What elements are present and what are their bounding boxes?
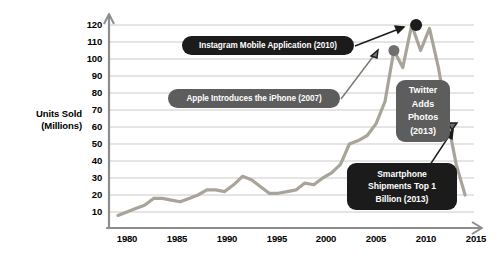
annotation-smartphone-line-1: Smartphone	[368, 168, 436, 181]
leader-iphone-head	[371, 50, 378, 58]
y-tick-label: 100	[78, 54, 102, 64]
y-tick-label: 110	[78, 37, 102, 47]
line-chart: Units Sold (Millions) 120 110 100 90 80 …	[0, 0, 504, 260]
annotation-twitter-line-4: (2013)	[408, 125, 438, 139]
y-tick-label: 50	[78, 139, 102, 149]
annotation-twitter[interactable]: Twitter Adds Photos (2013)	[396, 80, 450, 142]
y-tick-label: 40	[78, 156, 102, 166]
x-tick-label: 1985	[160, 234, 194, 244]
y-tick-label: 20	[78, 190, 102, 200]
annotation-smartphone-line-2: Shipments Top 1	[368, 180, 436, 193]
annotation-iphone[interactable]: Apple Introduces the iPhone (2007)	[168, 89, 340, 108]
y-tick-label: 30	[78, 173, 102, 183]
annotation-smartphone[interactable]: Smartphone Shipments Top 1 Billion (2013…	[347, 163, 457, 210]
annotation-twitter-line-1: Twitter	[408, 84, 438, 98]
y-axis-title-line-2: (Millions)	[4, 120, 82, 132]
annotation-smartphone-line-3: Billion (2013)	[368, 193, 436, 206]
y-tick-label: 10	[78, 207, 102, 217]
y-tick-label: 60	[78, 122, 102, 132]
y-tick-label: 80	[78, 88, 102, 98]
iphone-marker[interactable]	[388, 45, 399, 56]
y-tick-label: 120	[78, 20, 102, 30]
annotation-instagram[interactable]: Instagram Mobile Application (2010)	[182, 36, 354, 55]
x-tick-label: 1980	[110, 234, 144, 244]
y-tick-label: 90	[78, 71, 102, 81]
annotation-twitter-line-3: Photos	[408, 111, 438, 125]
instagram-marker[interactable]	[410, 19, 422, 31]
leader-instagram-head	[395, 26, 404, 33]
y-axis-title: Units Sold (Millions)	[4, 108, 82, 131]
x-tick-label: 2005	[359, 234, 393, 244]
x-tick-label: 2010	[409, 234, 443, 244]
x-tick-label: 2015	[459, 234, 493, 244]
x-tick-label: 2000	[309, 234, 343, 244]
y-axis-title-line-1: Units Sold	[4, 108, 82, 120]
annotation-twitter-line-2: Adds	[408, 98, 438, 112]
x-tick-label: 1990	[210, 234, 244, 244]
y-tick-label: 70	[78, 105, 102, 115]
leader-iphone	[341, 50, 378, 99]
x-tick-label: 1995	[260, 234, 294, 244]
